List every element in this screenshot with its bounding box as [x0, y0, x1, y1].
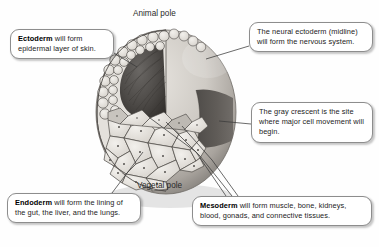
callout-neural-ectoderm[interactable]: The neural ectoderm (midline) will form …: [249, 22, 373, 52]
callout-neural-text: The neural ectoderm (midline) will form …: [257, 27, 358, 46]
label-vegetal-pole: Vegetal pole: [137, 181, 182, 190]
callout-ectoderm-term: Ectoderm: [18, 34, 53, 43]
label-animal-pole: Animal pole: [133, 9, 176, 18]
callout-endoderm-term: Endoderm: [15, 198, 52, 207]
callout-mesoderm[interactable]: Mesoderm will form muscle, bone, kidneys…: [192, 196, 372, 226]
callout-crescent-text: The gray crescent is the site where majo…: [259, 107, 364, 136]
figure-canvas: Animal pole Vegetal pole Ectoderm will f…: [0, 0, 379, 247]
callout-mesoderm-term: Mesoderm: [200, 201, 238, 210]
callout-ectoderm[interactable]: Ectoderm will form epidermal layer of sk…: [10, 29, 114, 59]
callout-endoderm[interactable]: Endoderm will form the lining of the gut…: [7, 193, 141, 223]
callout-gray-crescent[interactable]: The gray crescent is the site where majo…: [251, 102, 373, 143]
